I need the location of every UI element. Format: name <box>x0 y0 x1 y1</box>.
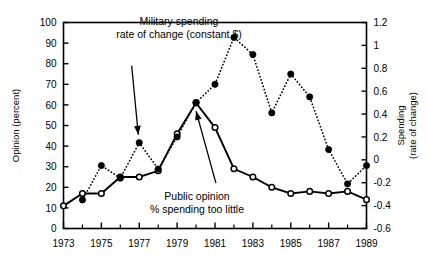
military-spending-annotation-line2: rate of change (constant $) <box>116 28 242 40</box>
x-tick-label: 1977 <box>128 238 151 249</box>
spending-data-point <box>326 146 332 152</box>
y-tick-label-left: 60 <box>45 100 57 111</box>
y-tick-label-right: 1 <box>374 40 380 51</box>
opinion-data-point <box>345 189 351 195</box>
spending-data-point <box>98 162 104 168</box>
spending-data-point <box>307 94 313 100</box>
y-tick-label-left: 40 <box>45 141 57 152</box>
opinion-data-point <box>80 191 86 197</box>
y-tick-label-left: 0 <box>51 223 57 234</box>
opinion-data-point <box>250 174 256 180</box>
spending-data-point <box>155 166 161 172</box>
y-tick-label-right: 1.2 <box>374 17 388 28</box>
x-tick-label: 1975 <box>90 238 113 249</box>
y-tick-label-left: 100 <box>40 17 57 28</box>
spending-data-point <box>344 181 350 187</box>
y-tick-label-left: 80 <box>45 58 57 69</box>
opinion-data-point <box>61 203 67 209</box>
y-axis-title-right-line1: Spending <box>395 105 406 145</box>
opinion-data-point <box>99 191 105 197</box>
opinion-data-point <box>269 185 275 191</box>
spending-data-point <box>212 81 218 87</box>
opinion-spending-line-chart: 0102030405060708090100 -0.6-0.4-0.200.20… <box>0 0 428 268</box>
spending-data-point <box>363 162 369 168</box>
spending-data-point <box>117 175 123 181</box>
opinion-data-point <box>136 174 142 180</box>
spending-data-point <box>174 134 180 140</box>
y-tick-label-right: -0.4 <box>374 200 392 211</box>
x-tick-label: 1983 <box>242 238 265 249</box>
x-tick-label: 1979 <box>166 238 189 249</box>
x-tick-label: 1987 <box>318 238 341 249</box>
opinion-data-point <box>326 191 332 197</box>
spending-data-point <box>136 140 142 146</box>
opinion-data-point <box>307 189 313 195</box>
y-axis-title-right-line2: (rate of change) <box>407 92 418 159</box>
y-tick-label-right: 0 <box>374 154 380 165</box>
x-tick-label: 1973 <box>52 238 75 249</box>
y-tick-label-right: 0.2 <box>374 132 388 143</box>
spending-data-point <box>288 71 294 77</box>
spending-data-point <box>193 100 199 106</box>
y-tick-label-left: 30 <box>45 161 57 172</box>
spending-data-point <box>79 197 85 203</box>
y-tick-label-left: 70 <box>45 79 57 90</box>
spending-data-point <box>250 51 256 57</box>
x-tick-label: 1985 <box>280 238 303 249</box>
public-opinion-annotation-line1: Public opinion <box>164 190 230 202</box>
y-tick-label-left: 20 <box>45 182 57 193</box>
x-tick-label: 1989 <box>355 238 378 249</box>
opinion-data-point <box>231 166 237 172</box>
y-tick-label-right: 0.6 <box>374 86 388 97</box>
y-tick-label-right: -0.6 <box>374 223 392 234</box>
y-tick-label-left: 50 <box>45 120 57 131</box>
x-tick-label: 1981 <box>204 238 227 249</box>
y-tick-label-left: 10 <box>45 203 57 214</box>
opinion-data-point <box>364 197 370 203</box>
spending-data-point <box>269 110 275 116</box>
public-opinion-annotation-line2: % spending too little <box>150 203 244 215</box>
y-tick-label-left: 90 <box>45 38 57 49</box>
opinion-data-point <box>212 125 218 131</box>
y-tick-label-right: 0.8 <box>374 63 388 74</box>
military-spending-annotation-line1: Military spending <box>140 15 219 27</box>
opinion-data-point <box>288 191 294 197</box>
y-axis-title-left: Opinion (percent) <box>10 89 21 162</box>
chart-container: 0102030405060708090100 -0.6-0.4-0.200.20… <box>0 0 428 268</box>
y-tick-label-right: 0.4 <box>374 109 388 120</box>
y-tick-label-right: -0.2 <box>374 177 392 188</box>
